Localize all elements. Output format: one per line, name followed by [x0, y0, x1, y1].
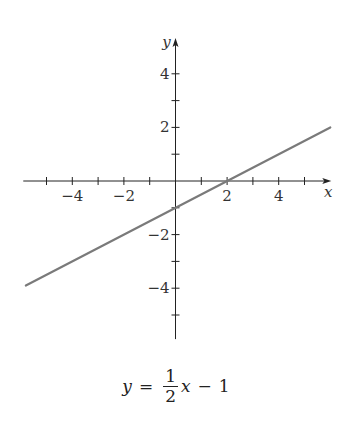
caption-constant: 1 [219, 376, 230, 396]
caption-numerator: 1 [163, 367, 178, 387]
caption-minus: − [198, 376, 212, 396]
equation-caption: y = 1 2 x − 1 [0, 358, 352, 414]
y-tick-label: 2 [160, 118, 170, 136]
axis-labels: xy [161, 33, 333, 201]
x-tick-label: 2 [222, 187, 232, 205]
y-tick-label: −2 [147, 226, 169, 244]
caption-lhs: y [122, 376, 132, 396]
x-axis-label: x [324, 183, 333, 201]
x-tick-label: −2 [113, 187, 135, 205]
caption-variable: x [181, 376, 191, 396]
x-tick-label: 4 [274, 187, 284, 205]
caption-equals: = [139, 376, 153, 396]
y-tick-label: 4 [160, 65, 170, 83]
caption-denominator: 2 [163, 387, 178, 406]
y-axis-label: y [161, 33, 171, 51]
x-tick-label: −4 [61, 187, 83, 205]
y-tick-label: −4 [147, 279, 169, 297]
caption-fraction: 1 2 [163, 367, 178, 405]
